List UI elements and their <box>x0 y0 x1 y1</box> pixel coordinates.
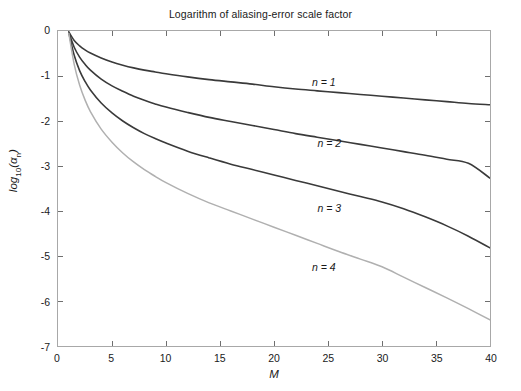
series-line-2 <box>69 32 490 178</box>
y-axis-label-arg-subscript: n <box>14 153 23 157</box>
y-tick-label: -7 <box>24 341 50 353</box>
chart-figure: Logarithm of aliasing-error scale factor… <box>0 0 521 391</box>
chart-title: Logarithm of aliasing-error scale factor <box>0 8 521 20</box>
y-axis-label-arg: (α <box>7 157 19 167</box>
x-tick-label: 10 <box>160 352 172 364</box>
y-axis-label-arg-close: ) <box>7 149 19 153</box>
x-tick-label: 25 <box>322 352 334 364</box>
x-axis-label: M <box>57 368 491 380</box>
x-tick-label: 30 <box>377 352 389 364</box>
series-line-1 <box>69 32 490 105</box>
x-tick-label: 40 <box>485 352 497 364</box>
y-axis-label-base: log <box>7 177 19 192</box>
x-tick-label: 5 <box>108 352 114 364</box>
y-tick-label: 0 <box>24 24 50 36</box>
plot-area <box>57 30 491 347</box>
y-axis-tick-labels: 0-1-2-3-4-5-6-7 <box>20 30 50 347</box>
y-tick-label: -5 <box>24 250 50 262</box>
y-tick-label: -4 <box>24 205 50 217</box>
x-tick-label: 20 <box>268 352 280 364</box>
y-axis-label-subscript: 10 <box>14 168 23 177</box>
y-tick-label: -6 <box>24 296 50 308</box>
series-line-3 <box>69 33 490 248</box>
x-tick-label: 35 <box>431 352 443 364</box>
series-annotation-4: n = 4 <box>312 261 336 273</box>
x-tick-label: 15 <box>214 352 226 364</box>
plot-svg <box>58 31 490 346</box>
y-tick-label: -1 <box>24 69 50 81</box>
x-axis-tick-labels: 0510152025303540 <box>57 352 491 368</box>
series-annotation-3: n = 3 <box>317 202 341 214</box>
y-tick-label: -3 <box>24 160 50 172</box>
series-annotation-2: n = 2 <box>317 137 341 149</box>
x-tick-label: 0 <box>54 352 60 364</box>
y-axis-label: log10(αn) <box>7 131 22 211</box>
series-annotation-1: n = 1 <box>312 76 336 88</box>
y-tick-label: -2 <box>24 115 50 127</box>
